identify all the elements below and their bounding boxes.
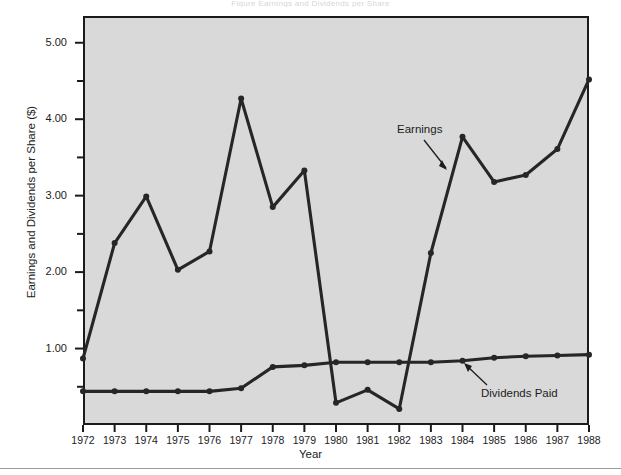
data-point [112,240,118,246]
data-point [460,134,466,140]
data-point [554,146,560,152]
y-axis-title: Earnings and Dividends per Share ($) [25,87,37,317]
data-point [333,400,339,406]
data-point [112,388,118,394]
data-point [301,167,307,173]
x-axis-title: Year [0,448,621,460]
data-point [207,388,213,394]
data-point [80,388,86,394]
x-tick-label: 1988 [569,435,609,446]
data-point [396,359,402,365]
y-tick-label: 5.00 [27,37,67,48]
series-annotation-dividends: Dividends Paid [481,387,558,399]
data-point [523,353,529,359]
x-axis-ticks [83,425,589,432]
data-point [586,76,592,82]
footer-rule [0,468,621,469]
dividends-leader-arrowhead [464,363,472,372]
data-point [207,248,213,254]
data-point [301,362,307,368]
data-point [270,204,276,210]
data-point [175,388,181,394]
data-point [143,388,149,394]
data-point [428,359,434,365]
data-point [270,364,276,370]
y-axis-ticks [75,43,83,387]
annotation-leader-lines [424,140,487,385]
data-series-group [80,76,592,412]
data-point [365,359,371,365]
data-point [491,355,497,361]
data-point [238,385,244,391]
data-point [491,179,497,185]
y-tick-label: 1.00 [27,343,67,354]
data-point [143,193,149,199]
data-point [523,172,529,178]
data-point [238,96,244,102]
data-point [460,358,466,364]
data-point [586,352,592,358]
data-point [554,352,560,358]
data-point [428,250,434,256]
chart-figure: 1.002.003.004.005.00 1972197319741975197… [0,0,621,460]
data-point [365,387,371,393]
series-annotation-earnings: Earnings [397,123,442,135]
data-point [175,267,181,273]
data-point [396,406,402,412]
data-point [80,355,86,361]
data-point [333,359,339,365]
